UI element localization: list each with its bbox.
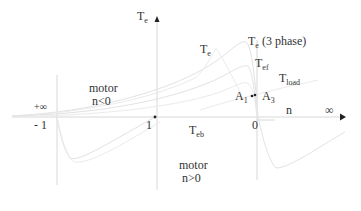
tload-curve [200,80,318,110]
x-axis-arrow-icon [340,114,346,121]
region-upper-line1: motor [89,81,118,95]
tick-plus-inf: +∞ [34,101,47,112]
x-axis-end-label: ∞ [325,103,334,117]
region-upper-line2: n<0 [92,94,111,108]
teb-curve-left-2 [57,117,160,162]
tick-one: 1 [146,118,152,132]
tload-label: Tload [279,71,300,87]
region-lower-line1: motor [179,158,208,172]
teb-label: Teb [189,123,204,139]
te-label: Te [200,42,211,58]
a3-label: A3 [262,89,275,105]
inner-curve [40,83,257,117]
point-one-dot [154,116,157,119]
te-3phase-label: Te (3 phase) [248,34,306,50]
a1-dot [251,95,254,98]
tef-label: Tef [255,56,269,72]
a3-dot [254,94,257,97]
y-axis-arrow-icon [155,16,160,22]
y-axis-label: Te [137,9,148,25]
te-3phase-curve [12,42,258,117]
tick-zero: 0 [252,118,258,132]
torque-speed-diagram: Te motor n<0 motor n>0 +∞ - 1 1 0 n ∞ Te… [0,0,361,211]
generator-curve [258,117,345,168]
tick-minus-one: - 1 [34,118,47,132]
region-lower-line2: n>0 [182,171,201,185]
a1-label: A1 [235,89,248,105]
x-axis-label: n [286,103,292,117]
